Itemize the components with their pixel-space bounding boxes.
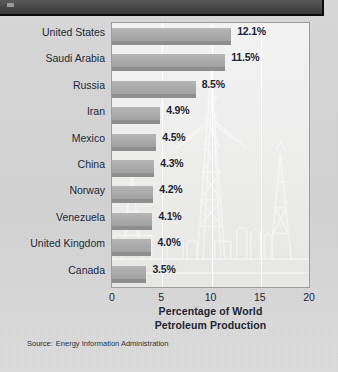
bar-segment: [112, 107, 160, 120]
bar-shadow: [112, 226, 152, 230]
bar-value-label: 11.5%: [231, 51, 259, 63]
category-label: Saudi Arabia: [0, 52, 105, 64]
category-label: United Kingdom: [0, 237, 105, 249]
bar-row: 4.1%: [112, 209, 309, 235]
bar-shadow: [112, 199, 153, 203]
bar-shadow: [112, 94, 196, 98]
bar-value-label: 4.2%: [159, 183, 182, 195]
bar-segment: [112, 186, 153, 199]
category-label: Iran: [0, 105, 105, 117]
axis-title-line2: Petroleum Production: [111, 319, 310, 333]
x-tick-label: 15: [254, 291, 266, 303]
bar-segment: [112, 213, 152, 226]
bar-value-label: 4.1%: [158, 210, 181, 222]
value-axis-ticks: 05101520: [111, 289, 310, 305]
bar-row: 4.5%: [112, 130, 309, 156]
bar-row: 11.5%: [112, 50, 309, 76]
source-text: Energy Information Administration: [56, 339, 169, 348]
chart-page: United StatesSaudi ArabiaRussiaIranMexic…: [0, 0, 338, 372]
category-label: Mexico: [0, 132, 105, 144]
category-label: Venezuela: [0, 211, 105, 223]
axis-title: Percentage of World Petroleum Production: [111, 305, 310, 332]
bar-value-label: 8.5%: [202, 78, 225, 90]
bar-value-label: 3.5%: [152, 263, 175, 275]
bar-shadow: [112, 120, 160, 124]
x-tick-label: 5: [158, 291, 164, 303]
document-header-bar: [0, 0, 324, 16]
x-tick-label: 0: [109, 291, 115, 303]
source-note: Source:Energy Information Administration: [27, 339, 168, 348]
bar-segment: [112, 81, 196, 94]
bar-value-label: 4.5%: [162, 131, 185, 143]
chart-plot-area: 12.1%11.5%8.5%4.9%4.5%4.3%4.2%4.1%4.0%3.…: [111, 22, 310, 288]
source-lead-label: Source:: [27, 339, 53, 348]
bar-shadow: [112, 173, 154, 177]
bar-row: 4.0%: [112, 235, 309, 261]
category-label: Norway: [0, 184, 105, 196]
category-label: Canada: [0, 264, 105, 276]
x-tick-label: 20: [303, 291, 315, 303]
bar-row: 8.5%: [112, 77, 309, 103]
bar-shadow: [112, 279, 146, 283]
bar-row: 12.1%: [112, 24, 309, 50]
bar-shadow: [112, 41, 231, 45]
bar-value-label: 4.9%: [166, 104, 189, 116]
bar-series: 12.1%11.5%8.5%4.9%4.5%4.3%4.2%4.1%4.0%3.…: [112, 23, 309, 287]
bar-segment: [112, 28, 231, 41]
bar-value-label: 4.0%: [157, 236, 180, 248]
bar-shadow: [112, 67, 225, 71]
category-label: Russia: [0, 79, 105, 91]
header-notch-mark: [7, 3, 14, 7]
bar-row: 4.3%: [112, 156, 309, 182]
bar-segment: [112, 54, 225, 67]
category-label: United States: [0, 26, 105, 38]
bar-segment: [112, 266, 146, 279]
bar-row: 3.5%: [112, 262, 309, 288]
bar-value-label: 12.1%: [237, 25, 266, 37]
bar-segment: [112, 160, 154, 173]
bar-shadow: [112, 147, 156, 151]
x-tick-label: 10: [205, 291, 217, 303]
bar-row: 4.2%: [112, 182, 309, 208]
category-axis-labels: United StatesSaudi ArabiaRussiaIranMexic…: [0, 22, 105, 288]
bar-segment: [112, 239, 151, 252]
axis-title-line1: Percentage of World: [111, 305, 310, 319]
bar-segment: [112, 134, 156, 147]
bar-shadow: [112, 252, 151, 256]
category-label: China: [0, 158, 105, 170]
bar-row: 4.9%: [112, 103, 309, 129]
bar-value-label: 4.3%: [160, 157, 183, 169]
